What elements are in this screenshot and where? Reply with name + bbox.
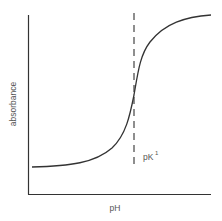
y-axis-label: absorbance [8,82,18,127]
titration-chart: absorbance pH pK 1 [0,0,222,221]
x-axis-label: pH [110,203,121,213]
sigmoid-curve [32,15,211,167]
pk-superscript: 1 [155,150,159,156]
pk-label: pK [143,152,154,162]
